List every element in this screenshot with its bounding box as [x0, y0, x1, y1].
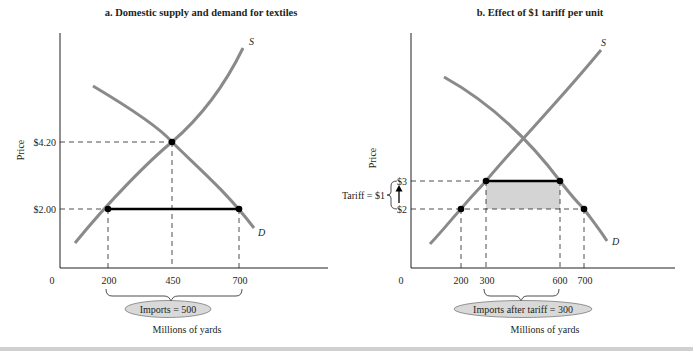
- bottom-rule: [0, 347, 693, 351]
- y-tick-2: $2: [397, 204, 407, 215]
- demand-dot-tariff: [557, 178, 564, 185]
- demand-label-b: D: [611, 236, 620, 247]
- imports-brace-b: [484, 289, 559, 302]
- panel-b: b. Effect of $1 tariff per unit S D $3: [342, 7, 675, 335]
- equilibrium-dot-a: [169, 139, 176, 146]
- demand-dot-a: [236, 206, 243, 213]
- demand-curve-b: [444, 77, 607, 241]
- tariff-bracket: [387, 181, 397, 209]
- x-tick-0-a: 0: [50, 275, 55, 286]
- y-axis-label-a: Price: [15, 139, 26, 160]
- supply-curve-a: [75, 48, 243, 243]
- y-axis-label-b: Price: [367, 147, 378, 168]
- x-tick-200-a: 200: [102, 275, 117, 286]
- y-tick-2-00: $2.00: [34, 204, 57, 215]
- panel-b-title: b. Effect of $1 tariff per unit: [477, 7, 604, 18]
- x-axis-label-a: Millions of yards: [153, 324, 222, 335]
- figure-canvas: a. Domestic supply and demand for textil…: [0, 0, 693, 357]
- tariff-revenue-area: [486, 181, 560, 209]
- panel-a-title: a. Domestic supply and demand for textil…: [105, 7, 298, 18]
- y-tick-4-20: $4.20: [34, 137, 57, 148]
- supply-curve-b: [430, 50, 601, 244]
- y-tick-3: $3: [397, 176, 407, 187]
- imports-label-a: Imports = 500: [140, 304, 197, 315]
- supply-dot-world: [458, 206, 465, 213]
- x-tick-0-b: 0: [399, 275, 404, 286]
- x-tick-700-a: 700: [233, 275, 248, 286]
- x-tick-200-b: 200: [454, 275, 469, 286]
- x-axis-label-b: Millions of yards: [511, 324, 580, 335]
- imports-label-b: Imports after tariff = 300: [473, 304, 573, 315]
- x-tick-700-b: 700: [578, 275, 593, 286]
- imports-brace-a: [106, 289, 242, 302]
- supply-dot-tariff: [483, 178, 490, 185]
- supply-label-a: S: [249, 36, 254, 47]
- tariff-label: Tariff = $1: [342, 190, 385, 201]
- x-tick-300-b: 300: [480, 275, 495, 286]
- demand-curve-a: [93, 86, 254, 228]
- x-tick-450-a: 450: [166, 275, 181, 286]
- demand-dot-world: [581, 206, 588, 213]
- demand-label-a: D: [257, 227, 266, 238]
- panel-a: a. Domestic supply and demand for textil…: [15, 7, 328, 335]
- supply-dot-a: [105, 206, 112, 213]
- supply-label-b: S: [601, 37, 606, 48]
- x-tick-600-b: 600: [553, 275, 568, 286]
